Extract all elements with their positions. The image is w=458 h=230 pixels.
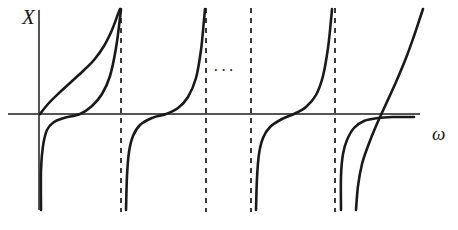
y-axis-label: X — [21, 5, 36, 29]
reactance-plot-figure: X ω ··· — [0, 0, 458, 230]
x-axis-label: ω — [432, 123, 445, 144]
plot-canvas: X ω ··· — [0, 0, 458, 230]
ellipsis-label: ··· — [213, 61, 236, 80]
